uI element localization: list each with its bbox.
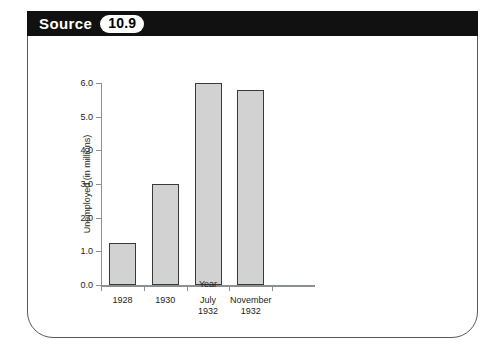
y-tick-label: 0.0	[80, 280, 93, 290]
bar	[195, 83, 222, 285]
y-tick	[96, 117, 101, 118]
y-tick	[96, 251, 101, 252]
y-tick	[96, 218, 101, 219]
y-tick	[96, 150, 101, 151]
bar	[109, 243, 136, 285]
y-tick-label: 4.0	[80, 145, 93, 155]
x-tick	[229, 285, 230, 291]
x-tick	[187, 285, 188, 291]
bar	[237, 90, 264, 285]
source-label: Source	[39, 15, 92, 32]
bar	[152, 184, 179, 285]
x-tick-label: July 1932	[198, 295, 218, 317]
source-banner: Source 10.9	[27, 11, 478, 36]
x-tick	[272, 285, 273, 291]
y-tick	[96, 184, 101, 185]
y-axis-line	[101, 83, 102, 285]
y-tick-label: 6.0	[80, 78, 93, 88]
x-axis-title: Year	[199, 279, 217, 289]
y-tick-label: 2.0	[80, 213, 93, 223]
x-tick	[144, 285, 145, 291]
y-tick-label: 3.0	[80, 179, 93, 189]
x-tick-label: 1928	[112, 295, 132, 306]
source-number-badge: 10.9	[100, 15, 144, 33]
x-tick	[101, 285, 102, 291]
y-tick	[96, 83, 101, 84]
y-tick-label: 5.0	[80, 112, 93, 122]
plot-area: 0.01.02.03.04.05.06.0 19281930July 1932N…	[101, 83, 315, 285]
x-tick-label: November 1932	[230, 295, 272, 317]
x-tick-label: 1930	[155, 295, 175, 306]
y-tick-label: 1.0	[80, 246, 93, 256]
bar-chart: Unemployed (in millions) 0.01.02.03.04.0…	[27, 36, 478, 338]
